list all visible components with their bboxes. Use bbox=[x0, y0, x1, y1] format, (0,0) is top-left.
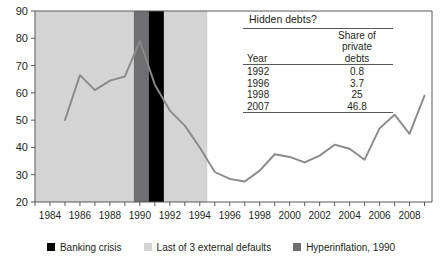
table-row: 1992 0.8 bbox=[243, 66, 393, 78]
table-cell-share: 25 bbox=[321, 89, 393, 101]
legend-swatch-icon bbox=[293, 243, 301, 251]
y-axis-tick-label: 20 bbox=[16, 196, 28, 208]
table-row: 1996 3.7 bbox=[243, 78, 393, 90]
table-cell-year: 2007 bbox=[243, 101, 321, 113]
x-axis-tick-label: 1986 bbox=[69, 210, 92, 221]
event-band bbox=[35, 11, 207, 202]
y-axis-tick-label: 80 bbox=[16, 32, 28, 44]
table-row: 1998 25 bbox=[243, 89, 393, 101]
x-axis-tick-label: 1988 bbox=[99, 210, 122, 221]
table-cell-year: 1996 bbox=[243, 78, 321, 90]
x-axis-tick-label: 2000 bbox=[279, 210, 302, 221]
x-axis-tick-label: 1990 bbox=[129, 210, 152, 221]
table-cell-share: 46.8 bbox=[321, 101, 393, 113]
table-title: Hidden debts? bbox=[243, 14, 393, 28]
y-axis-tick-label: 30 bbox=[16, 169, 28, 181]
table-grid: Year Share of private debts 1992 0.8 199… bbox=[243, 28, 393, 115]
chart-legend: Banking crisis Last of 3 external defaul… bbox=[0, 236, 442, 258]
legend-swatch-icon bbox=[47, 243, 55, 251]
table-cell-share: 0.8 bbox=[321, 66, 393, 78]
y-axis-tick-label: 50 bbox=[16, 114, 28, 126]
table-header-share-line1: Share of bbox=[325, 30, 389, 42]
x-axis-tick-label: 2006 bbox=[368, 210, 391, 221]
table-cell-year: 1992 bbox=[243, 66, 321, 78]
legend-item-banking-crisis: Banking crisis bbox=[47, 242, 122, 253]
table-header-share-line3: debts bbox=[325, 53, 389, 65]
x-axis-tick-label: 1996 bbox=[219, 210, 242, 221]
x-axis-tick-label: 2002 bbox=[309, 210, 332, 221]
legend-label: Banking crisis bbox=[60, 242, 122, 253]
table-cell-share: 3.7 bbox=[321, 78, 393, 90]
table-header-row: Year Share of private debts bbox=[243, 30, 393, 65]
x-axis-tick-label: 1984 bbox=[39, 210, 62, 221]
table-cell-year: 1998 bbox=[243, 89, 321, 101]
x-axis-tick-label: 1998 bbox=[249, 210, 272, 221]
event-band bbox=[134, 11, 149, 202]
table-header-share-line2: private bbox=[325, 41, 389, 53]
hidden-debts-table: Hidden debts? Year Share of private debt… bbox=[243, 14, 393, 114]
y-axis-tick-label: 40 bbox=[16, 141, 28, 153]
legend-label: Hyperinflation, 1990 bbox=[306, 242, 395, 253]
legend-label: Last of 3 external defaults bbox=[157, 242, 272, 253]
table-row: 2007 46.8 bbox=[243, 101, 393, 113]
y-axis-tick-label: 70 bbox=[16, 60, 28, 72]
y-axis-tick-label: 60 bbox=[16, 87, 28, 99]
legend-swatch-icon bbox=[144, 243, 152, 251]
x-axis-tick-label: 2008 bbox=[398, 210, 421, 221]
legend-item-external-defaults: Last of 3 external defaults bbox=[144, 242, 272, 253]
event-band bbox=[149, 11, 164, 202]
table-header-share: Share of private debts bbox=[321, 30, 393, 65]
table-header-year: Year bbox=[243, 30, 321, 65]
y-axis-tick-label: 90 bbox=[16, 5, 28, 17]
x-axis-tick-label: 1994 bbox=[189, 210, 212, 221]
table-rule-bottom bbox=[243, 113, 393, 115]
x-axis-tick-label: 2004 bbox=[338, 210, 361, 221]
x-axis-tick-label: 1992 bbox=[159, 210, 182, 221]
legend-item-hyperinflation: Hyperinflation, 1990 bbox=[293, 242, 395, 253]
